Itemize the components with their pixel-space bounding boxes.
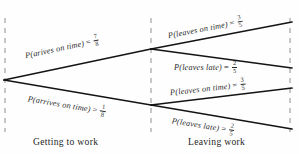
branch-equals-arrives-on-time-lower: =	[92, 105, 98, 115]
branch-equals-leaves-late-2: =	[221, 124, 227, 134]
branch-denominator-arrives-on-time-lower: 8	[99, 111, 105, 118]
branch-denominator-leaves-on-time-2: 5	[240, 84, 246, 91]
branch-equals-arrives-on-time-upper: =	[85, 38, 92, 48]
branch-denominator-leaves-on-time-1: 5	[237, 21, 244, 28]
stage-caption-getting-to-work: Getting to work	[33, 136, 98, 147]
branch-label-leaves-late-1: P(leaves late)=25	[174, 60, 237, 74]
tree-branch-lines	[4, 22, 292, 129]
tree-diagram-svg	[0, 0, 299, 154]
branch-equals-leaves-on-time-1: =	[229, 19, 235, 29]
probability-tree-figure: P(arives on time)=78 P(arrives on time)=…	[0, 0, 299, 154]
branch-denominator-arrives-on-time-upper: 8	[94, 40, 101, 48]
branch-denominator-leaves-late-1: 5	[232, 68, 237, 75]
stage-guide-lines	[5, 18, 290, 132]
branch-equals-leaves-on-time-2: =	[232, 81, 238, 90]
branch-equals-leaves-late-1: =	[224, 63, 229, 72]
branch-probability-leaves-late-1: 25	[232, 60, 237, 74]
branch-event-leaves-late-1: P(leaves late)	[174, 63, 222, 72]
stage-caption-leaving-work: Leaving work	[188, 136, 245, 147]
